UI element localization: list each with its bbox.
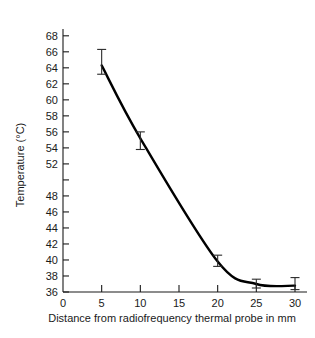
y-tick-label-46: 46	[46, 206, 58, 218]
x-axis-tick-labels: 051015202530	[60, 297, 301, 309]
y-tick-label-68: 68	[46, 30, 58, 42]
y-tick-label-38: 38	[46, 270, 58, 282]
y-axis-tick-marks	[63, 36, 69, 292]
y-tick-label-64: 64	[46, 62, 58, 74]
temperature-vs-distance-chart: 36384042444648525456586062646668 0510152…	[0, 0, 315, 338]
x-tick-label-10: 10	[134, 297, 146, 309]
y-tick-label-40: 40	[46, 254, 58, 266]
x-tick-label-0: 0	[60, 297, 66, 309]
x-tick-label-20: 20	[212, 297, 224, 309]
x-tick-label-5: 5	[99, 297, 105, 309]
y-tick-label-58: 58	[46, 110, 58, 122]
y-tick-label-56: 56	[46, 126, 58, 138]
error-bar-x30	[291, 278, 300, 290]
y-tick-label-42: 42	[46, 238, 58, 250]
x-tick-label-25: 25	[250, 297, 262, 309]
x-tick-label-15: 15	[173, 297, 185, 309]
y-tick-label-62: 62	[46, 78, 58, 90]
y-tick-label-36: 36	[46, 286, 58, 298]
y-tick-label-54: 54	[46, 142, 58, 154]
x-axis-title: Distance from radiofrequency thermal pro…	[48, 312, 296, 324]
y-axis-tick-labels: 36384042444648525456586062646668	[46, 30, 58, 298]
y-tick-label-60: 60	[46, 94, 58, 106]
y-tick-label-48: 48	[46, 190, 58, 202]
y-tick-label-44: 44	[46, 222, 58, 234]
y-tick-label-66: 66	[46, 46, 58, 58]
data-series-curve	[102, 65, 295, 286]
error-bars-group	[97, 49, 299, 289]
y-axis-title: Temperature (°C)	[14, 123, 26, 207]
y-tick-label-52: 52	[46, 158, 58, 170]
x-tick-label-30: 30	[289, 297, 301, 309]
chart-figure: 36384042444648525456586062646668 0510152…	[0, 0, 315, 338]
